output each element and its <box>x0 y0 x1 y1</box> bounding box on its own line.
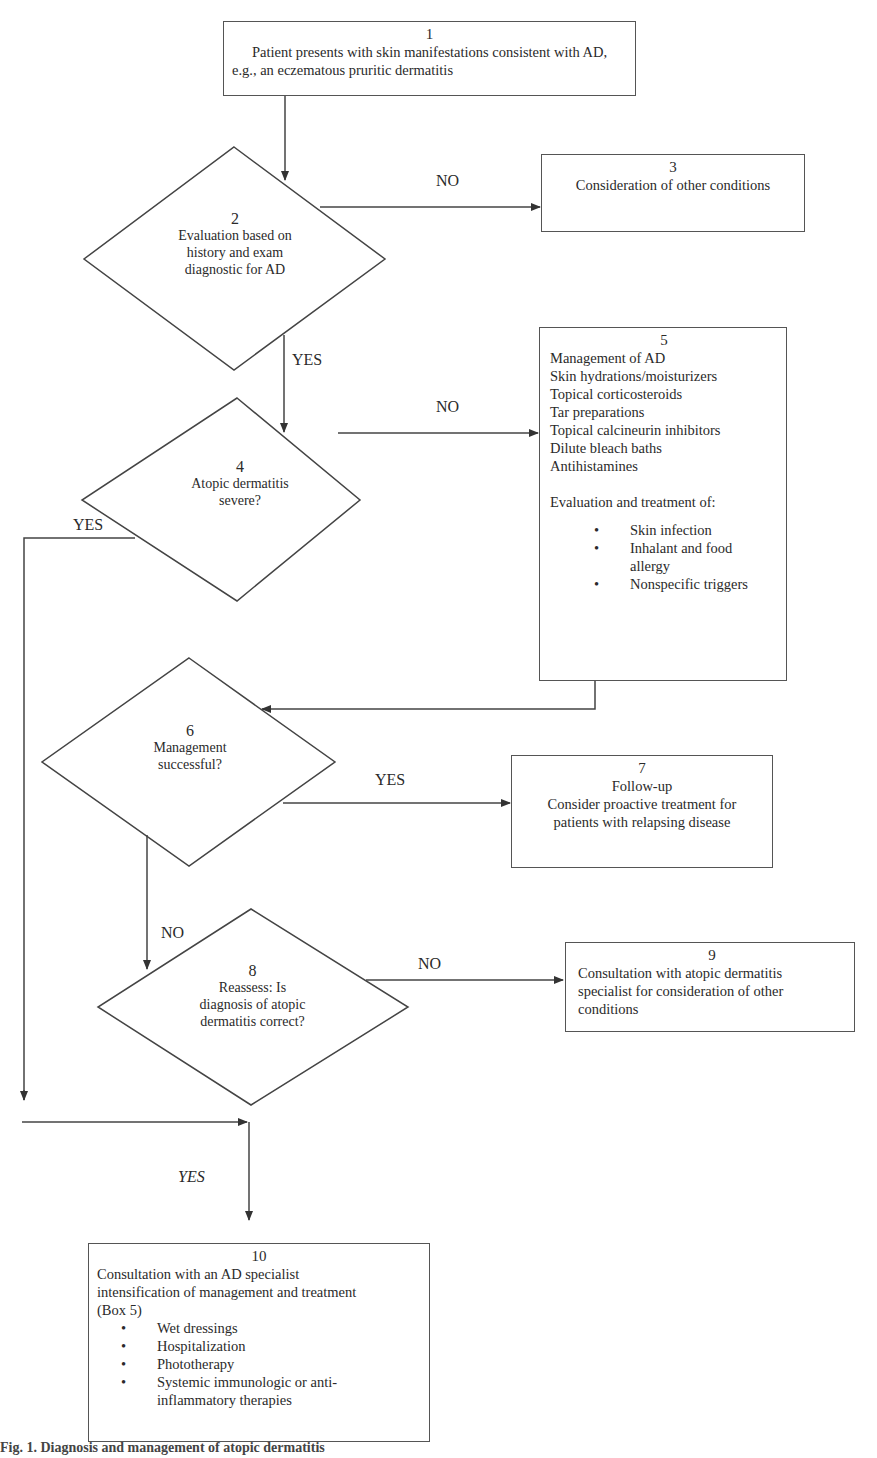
step-number: 2 <box>150 210 320 227</box>
management-item: Management of AD <box>550 349 778 367</box>
step-number: 6 <box>110 722 270 739</box>
step-number: 8 <box>170 962 335 979</box>
decision-label: Atopic dermatitis <box>160 475 320 492</box>
step-text: Consultation with atopic dermatitis spec… <box>578 964 828 1018</box>
management-item: Skin hydrations/moisturizers <box>550 367 778 385</box>
edge-label-no: NO <box>418 955 441 973</box>
step-text: (Box 5) <box>97 1301 421 1319</box>
bullet-item: Hospitalization <box>157 1337 387 1355</box>
step-text: Consider proactive treatment for <box>520 795 764 813</box>
decision-label: successful? <box>110 756 270 773</box>
intensification-bullet-list: Wet dressings Hospitalization Photothera… <box>97 1319 387 1409</box>
step-box-9: 9 Consultation with atopic dermatitis sp… <box>565 942 855 1032</box>
subheading: Evaluation and treatment of: <box>550 493 778 511</box>
step-number: 9 <box>578 946 846 964</box>
step-box-1: 1 Patient presents with skin manifestati… <box>223 21 636 96</box>
decision-label: severe? <box>160 492 320 509</box>
step-box-7: 7 Follow-up Consider proactive treatment… <box>511 755 773 868</box>
management-item: Dilute bleach baths <box>550 439 778 457</box>
step-number: 10 <box>97 1247 421 1265</box>
management-item: Antihistamines <box>550 457 778 475</box>
edge-label-yes: YES <box>292 351 322 369</box>
decision-label: diagnosis of atopic <box>170 996 335 1013</box>
edge-label-yes: YES <box>73 516 103 534</box>
bullet-item: Wet dressings <box>157 1319 387 1337</box>
figure-caption: Fig. 1. Diagnosis and management of atop… <box>0 1440 325 1456</box>
decision-label: Evaluation based on <box>150 227 320 244</box>
decision-label: Reassess: Is <box>170 979 335 996</box>
edge-label-yes: YES <box>178 1168 205 1186</box>
step-text: Consideration of other conditions <box>550 176 796 194</box>
decision-label: Management <box>110 739 270 756</box>
step-number: 3 <box>550 158 796 176</box>
bullet-item: Systemic immunologic or anti-inflammator… <box>157 1373 387 1409</box>
step-text: patients with relapsing disease <box>520 813 764 831</box>
step-number: 1 <box>232 25 627 43</box>
step-text: Patient presents with skin manifestation… <box>232 43 627 61</box>
bullet-item: Nonspecific triggers <box>630 575 750 593</box>
evaluation-bullet-list: Skin infection Inhalant and food allergy… <box>550 521 750 593</box>
bullet-item: Inhalant and food allergy <box>630 539 750 575</box>
decision-text-8: 8 Reassess: Is diagnosis of atopic derma… <box>170 962 335 1030</box>
edge-label-no: NO <box>436 398 459 416</box>
step-number: 4 <box>160 458 320 475</box>
bullet-item: Skin infection <box>630 521 750 539</box>
step-text: Follow-up <box>520 777 764 795</box>
management-item: Topical corticosteroids <box>550 385 778 403</box>
step-text: Consultation with an AD specialist <box>97 1265 421 1283</box>
management-item: Tar preparations <box>550 403 778 421</box>
step-number: 5 <box>550 331 778 349</box>
edge-label-yes: YES <box>375 771 405 789</box>
decision-text-4: 4 Atopic dermatitis severe? <box>160 458 320 509</box>
decision-text-2: 2 Evaluation based on history and exam d… <box>150 210 320 278</box>
step-box-3: 3 Consideration of other conditions <box>541 154 805 232</box>
decision-label: history and exam <box>150 244 320 261</box>
decision-label: dermatitis correct? <box>170 1013 335 1030</box>
step-text: e.g., an eczematous pruritic dermatitis <box>232 61 627 79</box>
decision-label: diagnostic for AD <box>150 261 320 278</box>
step-text: intensification of management and treatm… <box>97 1283 421 1301</box>
step-box-10: 10 Consultation with an AD specialist in… <box>88 1243 430 1442</box>
step-box-5: 5 Management of AD Skin hydrations/moist… <box>539 327 787 681</box>
edge-label-no: NO <box>436 172 459 190</box>
bullet-item: Phototherapy <box>157 1355 387 1373</box>
step-number: 7 <box>520 759 764 777</box>
edge-label-no: NO <box>161 924 184 942</box>
management-item: Topical calcineurin inhibitors <box>550 421 778 439</box>
decision-text-6: 6 Management successful? <box>110 722 270 773</box>
